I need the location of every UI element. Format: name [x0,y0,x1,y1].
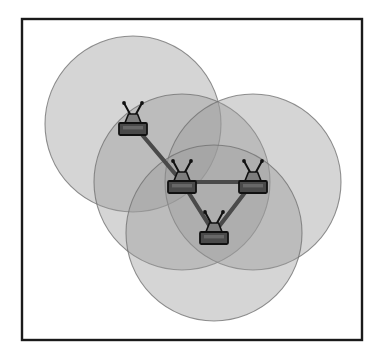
router-indicator-strip-icon [172,184,192,187]
antenna-tip-1-icon [122,101,126,105]
figure-canvas: Coverage area node 1Coverage area node 2… [0,0,384,356]
router-indicator-strip-icon [243,184,263,187]
antenna-tip-2-icon [260,159,264,163]
antenna-tip-1-icon [242,159,246,163]
antenna-tip-2-icon [189,159,193,163]
antenna-tip-1-icon [203,210,207,214]
network-diagram: Coverage area node 1Coverage area node 2… [0,0,384,356]
antenna-tip-2-icon [140,101,144,105]
router-indicator-strip-icon [204,235,224,238]
router-indicator-strip-icon [123,126,143,129]
antenna-tip-2-icon [221,210,225,214]
antenna-tip-1-icon [171,159,175,163]
